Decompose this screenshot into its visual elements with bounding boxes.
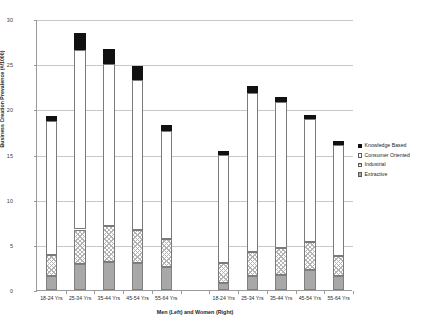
bar-segment-industrial[interactable] xyxy=(304,242,316,270)
x-tick-mark xyxy=(94,291,95,294)
y-tick-mark xyxy=(34,201,37,202)
y-tick-mark xyxy=(34,246,37,247)
bar-stack[interactable] xyxy=(132,66,144,290)
bar-segment-consumer[interactable] xyxy=(247,93,259,252)
y-tick-mark xyxy=(34,20,37,21)
y-tick-label: 10 xyxy=(0,198,13,203)
x-tick-mark xyxy=(267,291,268,294)
bar-segment-extractive[interactable] xyxy=(161,267,173,290)
bar-stack[interactable] xyxy=(333,141,345,290)
bar-stack[interactable] xyxy=(74,33,86,290)
y-tick-label: 15 xyxy=(0,153,13,158)
x-tick-mark xyxy=(324,291,325,294)
bar-segment-industrial[interactable] xyxy=(275,248,287,274)
x-tick-mark xyxy=(353,291,354,294)
bar-segment-knowledge[interactable] xyxy=(161,125,173,131)
bar-stack[interactable] xyxy=(218,151,230,290)
y-tick-label: 20 xyxy=(0,108,13,113)
bar-segment-industrial[interactable] xyxy=(247,252,259,276)
plot-area: 051015202530 18-24 Yrs25-34 Yrs35-44 Yrs… xyxy=(36,20,352,291)
bar-segment-knowledge[interactable] xyxy=(74,33,86,49)
bar-segment-knowledge[interactable] xyxy=(103,49,115,64)
x-tick-mark xyxy=(181,291,182,294)
y-tick-label: 25 xyxy=(0,63,13,68)
bar-segment-extractive[interactable] xyxy=(74,264,86,290)
bar-segment-industrial[interactable] xyxy=(161,239,173,266)
x-tick-mark xyxy=(152,291,153,294)
chart-legend: Knowledge BasedConsumer OrientedIndustri… xyxy=(358,141,434,179)
bar-segment-extractive[interactable] xyxy=(333,276,345,290)
legend-label: Extractive xyxy=(365,172,388,177)
bar-stack[interactable] xyxy=(275,97,287,290)
bar-segment-industrial[interactable] xyxy=(103,226,115,262)
bar-segment-extractive[interactable] xyxy=(247,276,259,290)
legend-label: Consumer Oriented xyxy=(365,153,410,158)
bar-segment-extractive[interactable] xyxy=(218,283,230,290)
bar-segment-industrial[interactable] xyxy=(132,230,144,263)
bar-stack[interactable] xyxy=(103,49,115,290)
bar-stack[interactable] xyxy=(247,86,259,290)
legend-item[interactable]: Knowledge Based xyxy=(358,141,434,151)
legend-item[interactable]: Consumer Oriented xyxy=(358,151,434,161)
legend-swatch-extractive-icon xyxy=(358,172,362,176)
bar-segment-extractive[interactable] xyxy=(132,263,144,290)
bar-segment-consumer[interactable] xyxy=(218,155,230,263)
gridline xyxy=(37,20,353,21)
bar-segment-industrial[interactable] xyxy=(46,255,58,276)
bar-segment-knowledge[interactable] xyxy=(247,86,259,93)
x-tick-mark xyxy=(123,291,124,294)
bar-segment-extractive[interactable] xyxy=(275,275,287,290)
bar-segment-consumer[interactable] xyxy=(275,102,287,248)
legend-swatch-consumer-icon xyxy=(358,153,362,157)
x-axis-title: Men (Left) and Women (Right) xyxy=(37,309,353,315)
y-tick-mark xyxy=(34,291,37,292)
y-axis-title: Business Creation Prevalence (#/1000) xyxy=(0,0,5,249)
bar-segment-extractive[interactable] xyxy=(46,276,58,290)
x-tick-label: 55-64 Yrs xyxy=(148,296,185,301)
legend-item[interactable]: Extractive xyxy=(358,170,434,180)
bar-segment-consumer[interactable] xyxy=(161,131,173,239)
bar-segment-knowledge[interactable] xyxy=(275,97,287,102)
y-tick-label: 0 xyxy=(0,289,13,294)
stacked-bar-chart: Business Creation Prevalence (#/1000) 05… xyxy=(0,0,436,329)
x-tick-mark xyxy=(238,291,239,294)
bar-segment-knowledge[interactable] xyxy=(46,116,58,121)
bar-segment-industrial[interactable] xyxy=(218,263,230,283)
y-tick-mark xyxy=(34,110,37,111)
y-tick-label: 5 xyxy=(0,243,13,248)
legend-item[interactable]: Industrial xyxy=(358,160,434,170)
y-tick-mark xyxy=(34,156,37,157)
x-tick-label: 55-64 Yrs xyxy=(320,296,357,301)
bar-segment-consumer[interactable] xyxy=(333,145,345,256)
bar-stack[interactable] xyxy=(304,115,316,290)
bar-segment-knowledge[interactable] xyxy=(132,66,144,80)
bar-segment-consumer[interactable] xyxy=(46,121,58,255)
bar-segment-consumer[interactable] xyxy=(103,64,115,226)
bar-segment-consumer[interactable] xyxy=(132,80,144,231)
legend-label: Industrial xyxy=(365,162,386,167)
bar-segment-knowledge[interactable] xyxy=(218,151,230,155)
x-tick-mark xyxy=(66,291,67,294)
bar-segment-industrial[interactable] xyxy=(333,256,345,276)
bar-segment-consumer[interactable] xyxy=(304,119,316,242)
bar-stack[interactable] xyxy=(161,125,173,290)
bar-segment-extractive[interactable] xyxy=(304,270,316,290)
legend-swatch-knowledge-icon xyxy=(358,144,362,148)
y-tick-mark xyxy=(34,65,37,66)
bar-segment-knowledge[interactable] xyxy=(333,141,345,145)
bar-segment-industrial[interactable] xyxy=(74,230,86,264)
y-tick-label: 30 xyxy=(0,18,13,23)
x-tick-mark xyxy=(296,291,297,294)
legend-label: Knowledge Based xyxy=(365,143,407,148)
x-tick-mark xyxy=(209,291,210,294)
bar-segment-extractive[interactable] xyxy=(103,262,115,290)
bar-segment-knowledge[interactable] xyxy=(304,115,316,120)
bar-segment-consumer[interactable] xyxy=(74,50,86,230)
legend-swatch-industrial-icon xyxy=(358,163,362,167)
bar-stack[interactable] xyxy=(46,116,58,290)
